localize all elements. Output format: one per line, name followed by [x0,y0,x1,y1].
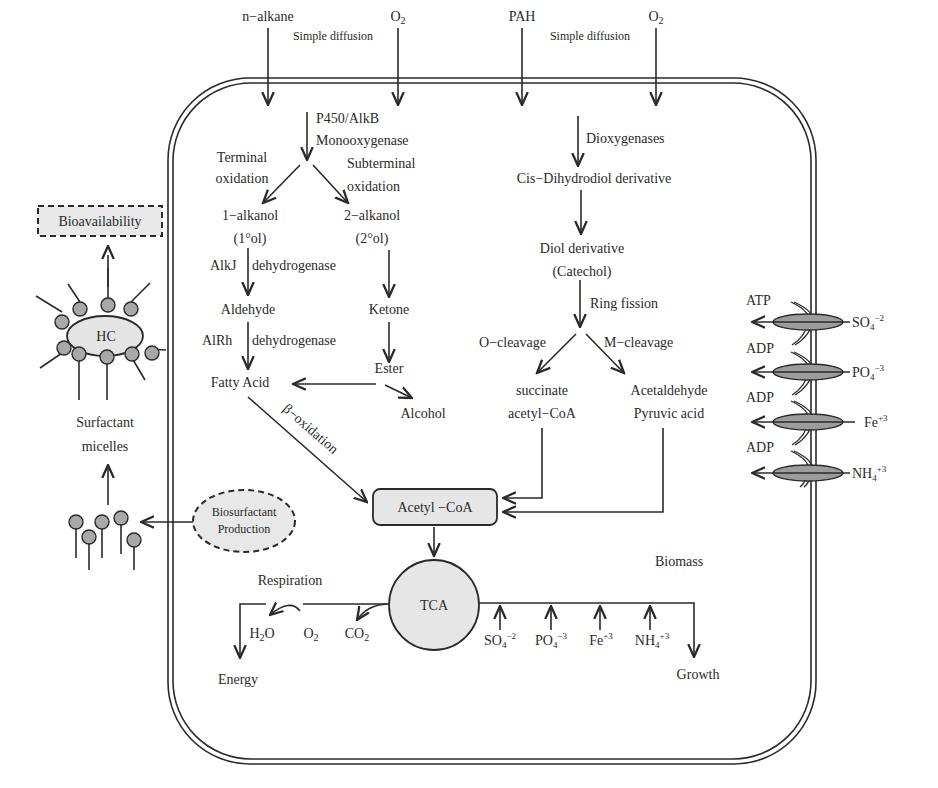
nutrient-nh4-label: NH4+3 [635,631,670,650]
alkane-pathway: P450/AlkB Monooxygenase Terminal oxidati… [202,111,446,502]
transporter-po4-label: PO4−3 [852,363,884,382]
alkj-label: AlkJ [210,258,237,273]
adp-label-1: ADP [746,341,774,356]
transporter-nh4: NH4+3 [752,464,887,483]
o-cleavage-label: O−cleavage [479,335,546,350]
hydrocarbon-degradation-diagram: n−alkane O2 Simple diffusion PAH O2 Simp… [0,0,938,788]
bioavailability-box: Bioavailability [38,206,162,236]
beta-oxidation-arrow [248,397,367,502]
transporter-fe-label: Fe+3 [864,413,888,430]
pah-label: PAH [509,9,536,24]
terminal-arrow [263,165,300,203]
atp-label: ATP [746,293,771,308]
catechol-label: (Catechol) [552,264,611,280]
subterminal-oxidation-label-1: Subterminal [347,156,416,171]
transporter-po4: PO4−3 [752,363,884,382]
uptake-section: n−alkane O2 Simple diffusion PAH O2 Simp… [242,9,663,105]
o2-respiration-label: O2 [303,626,318,643]
terminal-oxidation-label-1: Terminal [217,150,267,165]
respiration-label: Respiration [258,573,323,588]
bioavailability-label: Bioavailability [58,214,141,229]
succinate-to-acetyl-coa-arrow [503,428,542,498]
terminal-oxidation-label-2: oxidation [216,171,269,186]
pyruvic-acid-label: Pyruvic acid [634,406,704,421]
acetyl-coa-node: Acetyl −CoA [373,489,497,525]
alkanol2-label: 2−alkanol [344,208,400,223]
monooxygenase-label: Monooxygenase [316,133,409,148]
production-label: Production [218,522,271,536]
transporter-nh4-label: NH4+3 [852,464,887,483]
ester-label: Ester [375,361,404,376]
tca-node: TCA [389,560,479,650]
ketone-label: Ketone [369,302,409,317]
aldehyde-label: Aldehyde [221,302,275,317]
tca-to-co2-arrow [357,604,387,620]
m-cleavage-label: M−cleavage [604,335,673,350]
transporter-fe: Fe+3 [752,413,888,430]
dioxygenases-label: Dioxygenases [586,131,665,146]
transporter-so4-label: SO4−2 [852,313,884,332]
alrh-dehydrogenase-label: dehydrogenase [252,333,336,348]
tca-label: TCA [420,598,449,613]
acetyl-coa-product-label: acetyl−CoA [508,406,577,421]
simple-diffusion-left-label: Simple diffusion [293,29,373,43]
alcohol-label: Alcohol [400,406,445,421]
alkanol1-sub-label: (1°ol) [234,231,267,247]
succinate-label: succinate [516,383,568,398]
surfactant-monomers [69,511,141,570]
subterminal-oxidation-label-2: oxidation [347,179,400,194]
surfactant-label: Surfactant [76,415,134,430]
nutrient-po4-label: PO4−3 [535,631,567,650]
fatty-acid-label: Fatty Acid [211,375,270,390]
beta-oxidation-label: β−oxidation [280,401,341,457]
o2-left-label: O2 [390,9,405,26]
membrane-transporters: ATP ADP ADP ADP SO4−2 PO4−3 Fe+3 [746,293,888,487]
growth-label: Growth [677,667,720,682]
cis-dihydrodiol-label: Cis−Dihydrodiol derivative [517,171,672,186]
tca-to-growth-arrow [479,603,694,657]
alkanol1-label: 1−alkanol [222,208,278,223]
nutrient-so4-label: SO4−2 [484,631,516,650]
hc-micelle: HC [36,268,166,400]
biosurfactant-production-node: Biosurfactant Production [193,490,295,552]
nutrient-fe-label: Fe+3 [589,631,613,648]
energy-label: Energy [218,672,258,687]
adp-label-2: ADP [746,390,774,405]
simple-diffusion-right-label: Simple diffusion [550,29,630,43]
ring-fission-label: Ring fission [590,296,658,311]
micelles-label: micelles [82,439,129,454]
pah-pathway: Dioxygenases Cis−Dihydrodiol derivative … [479,116,707,512]
o2-right-label: O2 [648,9,663,26]
alrh-label: AlRh [202,333,232,348]
hc-label: HC [96,329,115,344]
p450-alkb-label: P450/AlkB [316,111,379,126]
co2-label: CO2 [345,626,369,643]
biosurfactant-label: Biosurfactant [212,505,277,519]
transporter-so4: SO4−2 [752,313,884,332]
alkj-dehydrogenase-label: dehydrogenase [252,258,336,273]
ester-to-alcohol-arrow [385,385,412,398]
h2o-label: H2O [249,626,274,643]
diol-derivative-label: Diol derivative [540,241,624,256]
adp-label-3: ADP [746,440,774,455]
pyruvate-to-acetyl-coa-arrow [503,428,663,512]
subterminal-arrow [313,165,348,203]
alkanol2-sub-label: (2°ol) [356,231,389,247]
acetyl-coa-label: Acetyl −CoA [397,500,473,515]
o2-to-h2o-arrow [270,605,300,615]
biomass-label: Biomass [655,554,703,569]
acetaldehyde-label: Acetaldehyde [631,383,708,398]
n-alkane-label: n−alkane [242,9,293,24]
